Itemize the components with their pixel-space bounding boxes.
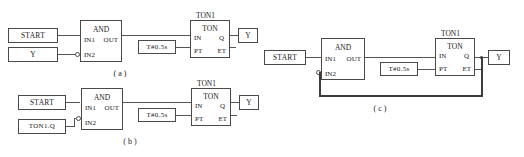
- a-wire-start-to-in1: [58, 35, 80, 36]
- a-wire-and-out-to-ton-in: [122, 35, 190, 36]
- b-and-pin-out: OUT: [105, 105, 119, 112]
- a-output-coil-box[interactable]: Y: [238, 28, 258, 43]
- c-ton-block[interactable]: TON IN Q PT ET: [435, 38, 475, 76]
- b-start-input-box[interactable]: START: [18, 95, 66, 110]
- c-wire-and-out-to-ton-in: [365, 57, 435, 58]
- b-ton-pin-pt: PT: [195, 116, 203, 123]
- b-wire-and-out-to-ton-in: [123, 102, 191, 103]
- a-ton-instance-label: TON1: [196, 12, 215, 20]
- c-ton-pin-in: IN: [439, 53, 446, 60]
- c-ton-pin-et: ET: [462, 66, 471, 73]
- a-ton-block-title: TON: [191, 25, 229, 33]
- a-and-block[interactable]: AND IN1 OUT IN2: [80, 20, 122, 62]
- c-feedback-wire-bottom: [319, 95, 482, 97]
- c-ton-block-title: TON: [436, 43, 474, 51]
- b-wire-q-to-output: [231, 102, 239, 103]
- b-preset-constant-box[interactable]: T#0.5s: [138, 108, 176, 122]
- figure-canvas: START Y AND IN1 OUT IN2 T#0.5s TON1 TON …: [0, 0, 524, 157]
- c-output-coil-box[interactable]: Y: [488, 50, 510, 65]
- c-feedback-wire-up: [319, 72, 321, 96]
- b-and-pin-in2: IN2: [85, 120, 96, 127]
- a-ton-pin-et: ET: [217, 48, 226, 55]
- c-caption: ( c ): [350, 105, 410, 113]
- b-ton-pin-et: ET: [218, 116, 227, 123]
- b-and-block-title: AND: [82, 94, 122, 102]
- c-ton-instance-label: TON1: [441, 30, 460, 38]
- a-ton-pin-pt: PT: [194, 48, 202, 55]
- b-wire-feedback-seg2: [74, 118, 75, 127]
- a-wire-feedback-to-in2: [58, 54, 75, 55]
- b-wire-start-to-in1: [66, 102, 80, 103]
- a-wire-preset-to-pt: [176, 47, 190, 48]
- b-ton-block-title: TON: [192, 93, 230, 101]
- b-feedback-input-box[interactable]: TON1.Q: [18, 119, 66, 134]
- c-feedback-wire-down: [481, 57, 483, 97]
- a-and-pin-in1: IN1: [84, 37, 95, 44]
- c-preset-constant-box[interactable]: T#0.5s: [380, 62, 418, 76]
- b-ton-pin-in: IN: [195, 103, 202, 110]
- c-and-pin-in2: IN2: [325, 71, 336, 78]
- c-and-block[interactable]: AND IN1 OUT IN2: [321, 38, 365, 80]
- c-and-pin-out: OUT: [347, 56, 361, 63]
- b-wire-et-stub: [231, 115, 237, 116]
- c-and-pin-in1: IN1: [325, 56, 336, 63]
- a-and-block-title: AND: [81, 26, 121, 34]
- b-ton-pin-q: Q: [220, 103, 225, 110]
- a-and-pin-in2: IN2: [84, 52, 95, 59]
- a-ton-block[interactable]: TON IN Q PT ET: [190, 20, 230, 58]
- b-and-block[interactable]: AND IN1 OUT IN2: [81, 88, 123, 130]
- b-ton-block[interactable]: TON IN Q PT ET: [191, 88, 231, 126]
- b-and-pin-in1: IN1: [85, 105, 96, 112]
- c-start-input-box[interactable]: START: [264, 50, 306, 65]
- a-feedback-input-box[interactable]: Y: [8, 47, 58, 62]
- c-ton-pin-q: Q: [464, 53, 469, 60]
- a-and-pin-out: OUT: [104, 37, 118, 44]
- c-wire-start-to-in1: [306, 57, 321, 58]
- a-ton-pin-in: IN: [194, 35, 201, 42]
- a-wire-et-stub: [230, 47, 236, 48]
- a-caption: ( a ): [90, 70, 150, 78]
- a-start-input-box[interactable]: START: [8, 28, 58, 43]
- a-ton-pin-q: Q: [219, 35, 224, 42]
- a-preset-constant-box[interactable]: T#0.5s: [138, 40, 176, 54]
- b-caption: ( b ): [100, 138, 160, 146]
- c-wire-preset-to-pt: [418, 69, 435, 70]
- b-ton-instance-label: TON1: [197, 80, 216, 88]
- b-output-coil-box[interactable]: Y: [239, 95, 259, 110]
- c-ton-pin-pt: PT: [439, 66, 447, 73]
- c-and-block-title: AND: [322, 44, 364, 52]
- b-wire-preset-to-pt: [176, 115, 191, 116]
- a-wire-q-to-output: [230, 35, 238, 36]
